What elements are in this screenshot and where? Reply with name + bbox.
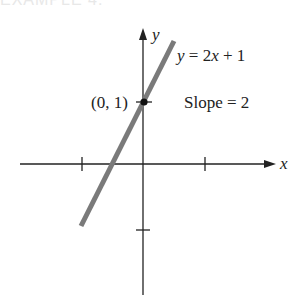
equation-const: 1: [237, 46, 246, 65]
equation-y: y: [177, 46, 185, 65]
equation-plus: +: [223, 46, 233, 65]
y-axis-arrow-icon: [139, 28, 147, 40]
y-axis-label: y: [152, 26, 160, 43]
slope-label: Slope = 2: [184, 94, 249, 111]
point-label: (0, 1): [91, 94, 128, 111]
equation-label: y = 2x + 1: [177, 47, 245, 64]
equation-x: x: [211, 46, 219, 65]
x-axis-label: x: [280, 155, 288, 172]
coordinate-plane: [0, 0, 296, 308]
intercept-point: [140, 98, 147, 105]
graph-line: [81, 41, 174, 226]
equation-equals: =: [189, 46, 199, 65]
equation-coef: 2: [203, 46, 212, 65]
x-axis-arrow-icon: [264, 160, 276, 168]
